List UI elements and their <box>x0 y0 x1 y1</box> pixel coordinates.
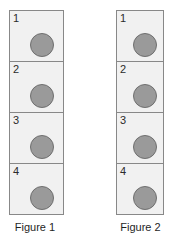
figure-1-caption: Figure 1 <box>7 221 63 234</box>
circle-icon <box>133 135 157 159</box>
cell-number-label: 1 <box>120 12 126 24</box>
figure-2-caption: Figure 2 <box>116 221 165 234</box>
figure-2-cell-2: 2 <box>117 62 163 113</box>
figure-1-cell-4: 4 <box>10 164 63 214</box>
circle-icon <box>30 135 54 159</box>
figure-group-1: 1 2 3 4 Figure 1 <box>9 0 65 243</box>
circle-icon <box>30 33 54 57</box>
figure-group-2: 1 2 3 4 Figure 2 <box>116 0 165 243</box>
figure-2-cell-1: 1 <box>117 11 163 62</box>
diagram-stage: 1 2 3 4 Figure 1 1 <box>0 0 173 243</box>
cell-number-label: 1 <box>13 12 19 24</box>
circle-icon <box>30 84 54 108</box>
circle-icon <box>133 186 157 210</box>
figure-1-cell-3: 3 <box>10 113 63 164</box>
figure-2-column: 1 2 3 4 <box>116 10 164 215</box>
figure-1-cell-1: 1 <box>10 11 63 62</box>
cell-number-label: 2 <box>120 63 126 75</box>
figure-1-cell-2: 2 <box>10 62 63 113</box>
cell-number-label: 3 <box>120 114 126 126</box>
circle-icon <box>133 33 157 57</box>
circle-icon <box>133 84 157 108</box>
figure-2-cell-3: 3 <box>117 113 163 164</box>
cell-number-label: 4 <box>13 165 19 177</box>
cell-number-label: 2 <box>13 63 19 75</box>
cell-number-label: 4 <box>120 165 126 177</box>
cell-number-label: 3 <box>13 114 19 126</box>
figure-1-column: 1 2 3 4 <box>9 10 64 215</box>
circle-icon <box>30 186 54 210</box>
figure-2-cell-4: 4 <box>117 164 163 214</box>
